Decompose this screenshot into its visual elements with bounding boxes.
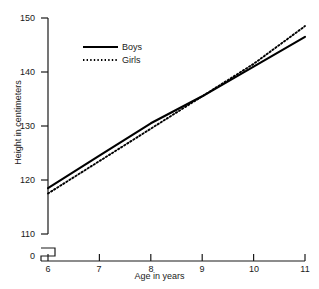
y-axis-title: Height in centimeters	[14, 63, 23, 183]
y-tick-label-150: 150	[9, 14, 35, 23]
y-tick-label-zero: 0	[9, 252, 35, 261]
chart-figure: 150 140 130 120 110 0 6 7 8 9 10 11 Heig…	[0, 0, 319, 289]
x-axis-title: Age in years	[0, 272, 319, 281]
chart-plot-area	[0, 0, 319, 289]
legend-label-girls: Girls	[122, 56, 141, 65]
legend-label-boys: Boys	[122, 43, 142, 52]
y-tick-label-110: 110	[9, 230, 35, 239]
